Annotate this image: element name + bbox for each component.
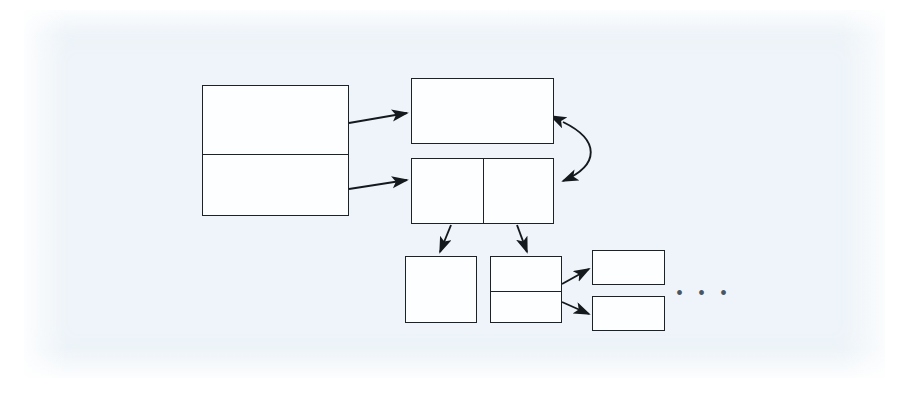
node-tail-1[interactable] (592, 250, 665, 285)
node-leaf-b-divider (491, 291, 561, 292)
node-root-table-divider (203, 154, 348, 155)
continuation-ellipsis: • • • (676, 283, 732, 303)
node-top-block[interactable] (411, 78, 554, 144)
node-root-table[interactable] (202, 85, 349, 216)
node-index-block-divider (483, 159, 484, 223)
node-leaf-a[interactable] (405, 256, 477, 323)
diagram-canvas: • • • (0, 0, 911, 403)
node-index-block[interactable] (411, 158, 554, 224)
node-leaf-b[interactable] (490, 256, 562, 323)
node-tail-2[interactable] (592, 296, 665, 331)
